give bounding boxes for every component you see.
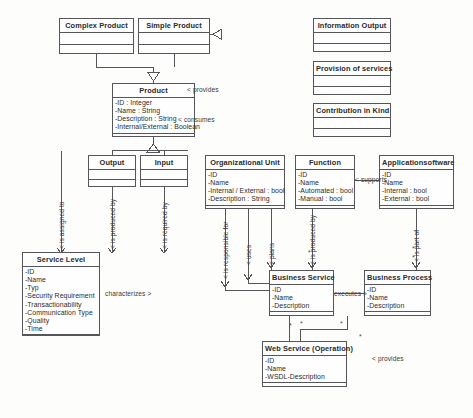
class-operations-simple-product [139, 45, 209, 54]
class-name-contribution-in-kind: Contribution in Kind [314, 104, 390, 118]
multiplicity-marker: * [340, 320, 343, 327]
class-operations-contribution-in-kind [314, 129, 390, 138]
attribute: -Description : String [208, 195, 283, 203]
class-name-service-level: Service Level [23, 253, 99, 267]
class-box-business-process[interactable]: Business Process -ID -Name -Description [364, 270, 431, 316]
multiplicity-marker: * [412, 254, 415, 261]
assoc-label-executes: executes > [334, 290, 367, 298]
class-box-input[interactable]: Input [140, 155, 188, 187]
class-operations-function [296, 206, 354, 215]
generalization-arrow-simple-product [213, 30, 221, 40]
class-name-product: Product [113, 84, 194, 98]
attribute: -Name [298, 179, 353, 187]
class-attributes-applicationsoftware: -ID -Name -Internal : bool -External : b… [380, 170, 453, 206]
attribute: -ID [367, 286, 429, 294]
attribute: -Security Requirement [25, 292, 98, 300]
class-name-output: Output [89, 156, 135, 170]
attribute: -ID [298, 171, 353, 179]
attribute: -ID [272, 286, 332, 294]
class-box-product[interactable]: Product -ID : Integer -Name : String -De… [112, 83, 195, 137]
attribute: -Time [25, 325, 98, 333]
multiplicity-marker: * [359, 333, 362, 340]
assoc-label-provides-bottom: < provides [372, 355, 404, 363]
attribute: -ID [382, 171, 452, 179]
uml-diagram-canvas: Complex Product Simple Product Informati… [0, 0, 473, 418]
class-name-organizational-unit: Organizational Unit [206, 156, 284, 170]
attribute: -Name [272, 294, 332, 302]
class-operations-service-level [23, 335, 99, 344]
attribute: -Internal/External : Boolean [115, 123, 193, 131]
attribute: -Name [367, 294, 429, 302]
class-attributes-organizational-unit: -ID -Name -Internal / External : bool -D… [206, 170, 284, 206]
class-box-organizational-unit[interactable]: Organizational Unit -ID -Name -Internal … [205, 155, 285, 209]
multiplicity-marker: * [412, 245, 415, 252]
class-box-provision-of-services[interactable]: Provision of services [313, 61, 391, 95]
class-operations-web-service-operation [263, 383, 346, 392]
class-attributes-complex-product [60, 33, 133, 45]
assoc-label-characterizes: characterizes > [105, 290, 151, 298]
class-operations-input [141, 180, 187, 189]
class-operations-output [89, 180, 135, 189]
class-attributes-business-service: -ID -Name -Description [270, 285, 333, 313]
multiplicity-marker: * [308, 249, 311, 256]
attribute: -Name [208, 179, 283, 187]
class-name-complex-product: Complex Product [60, 19, 133, 33]
attribute: -Communication Type [25, 309, 98, 317]
class-box-service-level[interactable]: Service Level -ID -Name -Typ -Security R… [22, 252, 100, 336]
gen-line-complex-product [97, 54, 154, 83]
class-box-contribution-in-kind[interactable]: Contribution in Kind [313, 103, 391, 137]
attribute: -ID [208, 171, 283, 179]
assoc-label-is-assigned-to: < is assigned to [58, 201, 66, 249]
multiplicity-marker: * [289, 322, 292, 329]
assoc-label-is-responsible-for: < is responsible for [222, 221, 230, 279]
class-attributes-contribution-in-kind [314, 118, 390, 129]
class-name-information-output: Information Output [314, 19, 390, 33]
attribute: -Internal : bool [382, 187, 452, 195]
class-name-business-process: Business Process [365, 271, 430, 285]
attribute: -Name [25, 276, 98, 284]
class-attributes-information-output [314, 33, 390, 44]
class-operations-complex-product [60, 45, 133, 54]
assoc-label-plans: < plans [268, 243, 276, 265]
class-attributes-business-process: -ID -Name -Description [365, 285, 430, 313]
attribute: -Name [382, 179, 452, 187]
attribute: -WSDL-Description [265, 373, 345, 381]
class-operations-applicationsoftware [380, 206, 453, 215]
attribute: -ID [265, 357, 345, 365]
attribute: -Name : String [115, 107, 193, 115]
class-name-input: Input [141, 156, 187, 170]
class-name-web-service-operation: Web Service (Operation) [263, 342, 346, 356]
assoc-label-is-required-by: < is required by [161, 202, 169, 249]
class-attributes-provision-of-services [314, 76, 390, 87]
class-box-simple-product[interactable]: Simple Product [138, 18, 210, 54]
class-operations-information-output [314, 44, 390, 53]
class-operations-product [113, 134, 194, 143]
class-box-function[interactable]: Function -ID -Name -Automated : bool -Ma… [295, 155, 355, 209]
generalization-arrow-output-input [148, 144, 160, 152]
attribute: -Manual : bool [298, 195, 353, 203]
class-box-web-service-operation[interactable]: Web Service (Operation) -ID -Name -WSDL-… [262, 341, 347, 387]
class-box-business-service[interactable]: Business Service -ID -Name -Description [269, 270, 334, 316]
attribute: -ID [25, 268, 98, 276]
attribute: -Internal / External : bool [208, 187, 283, 195]
class-box-complex-product[interactable]: Complex Product [59, 18, 134, 54]
generalization-arrow-product-top [148, 72, 160, 81]
class-attributes-output [89, 170, 135, 180]
attribute: -External : bool [382, 195, 452, 203]
assoc-arrow-orgunit-responsible [221, 281, 229, 287]
class-box-output[interactable]: Output [88, 155, 136, 187]
attribute: -Automated : bool [298, 187, 353, 195]
class-attributes-function: -ID -Name -Automated : bool -Manual : bo… [296, 170, 354, 206]
assoc-label-consumes: < consumes [178, 116, 215, 124]
assoc-label-is-produced-by-business-service: < is produced by [309, 215, 317, 265]
class-name-business-service: Business Service [270, 271, 333, 285]
class-box-applicationsoftware[interactable]: Applicationsoftware -ID -Name -Internal … [379, 155, 454, 209]
class-box-information-output[interactable]: Information Output [313, 18, 391, 52]
class-name-applicationsoftware: Applicationsoftware [380, 156, 453, 170]
assoc-arrow-uses [244, 274, 252, 280]
class-name-function: Function [296, 156, 354, 170]
assoc-label-is-produced-by-output: < is produced by [109, 199, 117, 249]
class-attributes-service-level: -ID -Name -Typ -Security Requirement -Tr… [23, 267, 99, 336]
attribute: -Typ [25, 284, 98, 292]
class-name-simple-product: Simple Product [139, 19, 209, 33]
